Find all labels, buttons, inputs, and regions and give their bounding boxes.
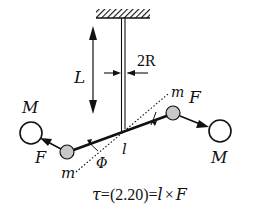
large-mass-right-label: M bbox=[210, 148, 228, 167]
small-mass-right bbox=[166, 106, 180, 120]
force-right-label: F bbox=[188, 87, 202, 107]
torque-equation: τ=(2.20)=l×F bbox=[92, 185, 188, 204]
equation-reference: (2.20) bbox=[110, 186, 149, 204]
large-mass-left-label: M bbox=[21, 98, 39, 117]
balance-rod bbox=[68, 114, 172, 152]
torsion-fiber bbox=[122, 18, 126, 131]
length-dimension-arrow bbox=[89, 26, 97, 114]
lever-arm-label: l bbox=[122, 140, 127, 158]
length-label: L bbox=[73, 67, 85, 87]
large-mass-left bbox=[20, 122, 42, 144]
force-left-label: F bbox=[34, 148, 47, 167]
large-mass-right bbox=[209, 120, 231, 142]
small-mass-left bbox=[60, 145, 74, 159]
fiber-width-arrows bbox=[104, 70, 148, 76]
ceiling-support bbox=[96, 9, 150, 18]
angle-label: Φ bbox=[96, 155, 107, 171]
torsion-balance-diagram: L 2R M M F F m m Φ l τ=(2.20)=l×F bbox=[0, 0, 254, 215]
small-mass-left-label: m bbox=[61, 164, 75, 182]
fiber-width-label: 2R bbox=[137, 52, 156, 69]
small-mass-right-label: m bbox=[171, 84, 184, 100]
force-arrow-right bbox=[180, 116, 209, 128]
